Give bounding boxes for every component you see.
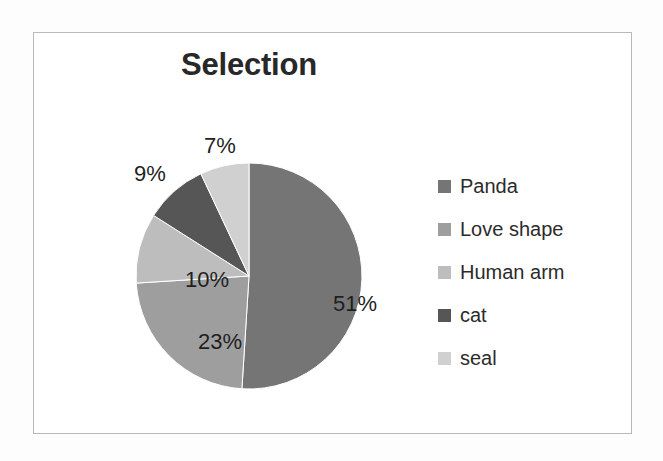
legend-item-panda: Panda (438, 165, 628, 208)
legend-swatch-icon (438, 352, 451, 365)
legend-item-seal: seal (438, 337, 628, 380)
pie-slice-group (136, 163, 362, 389)
legend-item-label: Panda (460, 175, 518, 198)
legend-item-cat: cat (438, 294, 628, 337)
pie-chart-plot-area (136, 163, 362, 389)
pie-slice-panda (242, 163, 362, 389)
legend-item-love-shape: Love shape (438, 208, 628, 251)
pie-data-label-panda: 51% (333, 291, 377, 317)
pie-data-label-seal: 7% (204, 133, 236, 159)
legend-item-label: Love shape (460, 218, 563, 241)
legend-swatch-icon (438, 180, 451, 193)
legend-swatch-icon (438, 266, 451, 279)
chart-legend: PandaLove shapeHuman armcatseal (438, 165, 628, 380)
pie-data-label-human-arm: 10% (185, 267, 229, 293)
legend-item-human-arm: Human arm (438, 251, 628, 294)
chart-frame: Selection 51% 23% 10% 9% 7% PandaLove sh… (33, 32, 632, 434)
pie-svg (136, 163, 362, 389)
legend-swatch-icon (438, 223, 451, 236)
legend-item-label: seal (460, 347, 497, 370)
legend-item-label: cat (460, 304, 487, 327)
chart-title: Selection (34, 47, 464, 83)
legend-item-label: Human arm (460, 261, 564, 284)
pie-data-label-love-shape: 23% (198, 329, 242, 355)
pie-data-label-cat: 9% (134, 161, 166, 187)
legend-swatch-icon (438, 309, 451, 322)
